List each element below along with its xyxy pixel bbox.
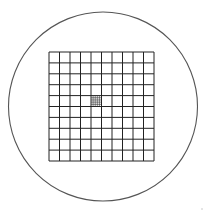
counting-grid bbox=[49, 52, 154, 161]
speck-mark bbox=[202, 209, 203, 210]
reticle-diagram bbox=[0, 0, 205, 213]
center-fine-grid bbox=[91, 96, 102, 107]
